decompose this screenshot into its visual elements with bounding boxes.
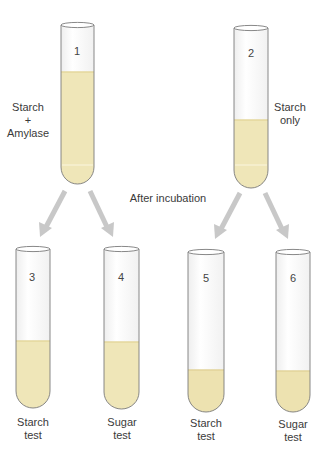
tube-number-4: 4	[111, 271, 131, 283]
experiment-diagram	[0, 0, 326, 449]
tube-1-label-line1: Starch	[0, 101, 56, 114]
tube-number-5: 5	[196, 272, 216, 284]
tube-6-label: Sugar test	[268, 418, 318, 444]
tube-1-label: Starch + Amylase	[0, 101, 56, 140]
tube-6-label-line1: Sugar	[268, 418, 318, 431]
tube-1-label-line3: Amylase	[0, 127, 56, 140]
tube-1-label-line2: +	[0, 114, 56, 127]
tube-5-label: Starch test	[181, 417, 231, 443]
tube-3-label-line2: test	[8, 429, 58, 442]
tube-number-3: 3	[22, 271, 42, 283]
tube-number-2: 2	[241, 47, 261, 59]
tube-5-label-line2: test	[181, 430, 231, 443]
tube-5-label-line1: Starch	[181, 417, 231, 430]
tube-number-1: 1	[67, 45, 87, 57]
tube-2-label: Starch only	[270, 101, 310, 127]
arrow-1-to-4	[90, 191, 114, 237]
tube-2-label-line1: Starch	[270, 101, 310, 114]
arrow-2-to-6	[265, 193, 289, 239]
after-incubation-caption: After incubation	[118, 192, 218, 205]
tube-3-label-line1: Starch	[8, 416, 58, 429]
tube-4-label-line1: Sugar	[97, 416, 147, 429]
tube-3-label: Starch test	[8, 416, 58, 442]
arrow-1-to-3	[39, 191, 65, 237]
tube-number-6: 6	[283, 272, 303, 284]
tube-4-label-line2: test	[97, 429, 147, 442]
tube-2-label-line2: only	[270, 114, 310, 127]
tube-6-label-line2: test	[268, 431, 318, 444]
tube-4-label: Sugar test	[97, 416, 147, 442]
